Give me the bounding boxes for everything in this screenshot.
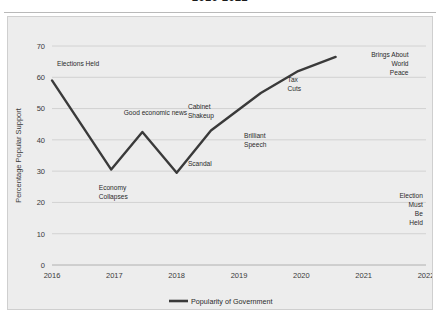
y-axis-tick-label: 50	[37, 104, 45, 113]
y-axis-tick-label: 10	[37, 230, 45, 239]
annotation-line: Brings About	[371, 51, 409, 59]
annotation-line: Brilliant	[244, 132, 266, 139]
x-axis-tick-label: 2018	[168, 271, 185, 280]
annotation-line: Peace	[390, 69, 409, 76]
annotation-line: Cabinet	[188, 103, 211, 110]
annotation-line: Election	[399, 192, 423, 199]
annotation-line: Scandal	[188, 160, 212, 167]
annotation-brings-about-world-peace: Brings AboutWorldPeace	[371, 51, 409, 76]
y-axis-tick-label: 70	[37, 42, 45, 51]
title-divider	[4, 12, 436, 13]
annotation-brilliant-speech: BrilliantSpeech	[244, 132, 267, 149]
annotation-elections-held: Elections Held	[57, 60, 99, 67]
annotation-line: Elections Held	[57, 60, 99, 67]
y-axis-tick-label: 30	[37, 167, 45, 176]
annotation-line: Tax	[288, 76, 299, 83]
annotation-economy-collapses: EconomyCollapses	[99, 184, 129, 201]
page-title: 2016-2022	[0, 0, 440, 3]
annotation-line: Cuts	[288, 85, 302, 92]
x-axis-tick-label: 2021	[355, 271, 372, 280]
legend-label: Popularity of Government	[191, 297, 273, 306]
annotation-election-must-be-held: ElectionMustBeHeld	[399, 192, 423, 227]
annotation-line: Good economic news	[124, 109, 188, 116]
annotation-line: World	[391, 60, 408, 67]
x-axis-tick-label: 2020	[293, 271, 310, 280]
x-axis-tick-label: 2019	[231, 271, 248, 280]
annotation-tax-cuts: TaxCuts	[288, 76, 302, 92]
y-axis-tick-label: 0	[41, 261, 45, 270]
annotation-line: Economy	[99, 184, 127, 192]
x-axis-tick-label: 2022	[418, 271, 433, 280]
y-axis-tick-label: 60	[37, 73, 45, 82]
annotation-line: Be	[415, 210, 423, 217]
annotation-line: Shakeup	[188, 112, 214, 120]
x-axis-tick-label: 2017	[106, 271, 123, 280]
y-axis-title: Percentage Popular Support	[14, 107, 23, 203]
chart-plot-frame: 0102030405060702016201720182019202020212…	[7, 16, 433, 310]
annotation-cabinet-shakeup: CabinetShakeup	[188, 103, 214, 120]
annotation-line: Must	[409, 201, 423, 208]
annotation-line: Held	[409, 219, 423, 226]
y-axis-tick-label: 40	[37, 136, 45, 145]
annotation-good-economic-news: Good economic news	[124, 109, 188, 116]
annotation-scandal: Scandal	[188, 160, 212, 167]
line-chart: 0102030405060702016201720182019202020212…	[8, 17, 433, 310]
annotation-line: Speech	[244, 141, 267, 149]
y-axis-tick-label: 20	[37, 198, 45, 207]
x-axis-tick-label: 2016	[44, 271, 61, 280]
annotation-line: Collapses	[99, 193, 129, 201]
